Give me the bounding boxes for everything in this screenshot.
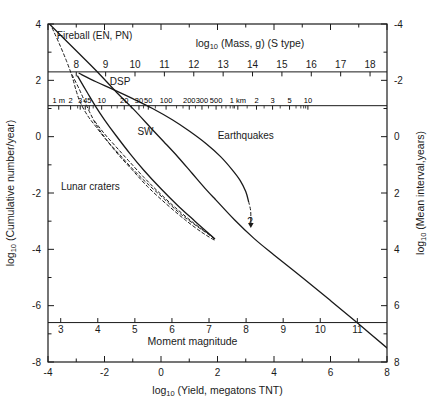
y-tick-label: -4 — [32, 244, 41, 255]
diameter-tick-label: 5 — [87, 96, 91, 105]
scientific-figure: -4-202468420-2-4-6-8-4-20246889101112131… — [0, 0, 436, 412]
curve-fireball-en-pn — [49, 24, 214, 199]
diameter-tick-label: 100 — [160, 96, 173, 105]
y2-tick-label: -2 — [394, 75, 403, 86]
x-tick-label: -4 — [44, 367, 53, 378]
diameter-tick-label: 500 — [210, 96, 223, 105]
x-tick-label: 4 — [271, 367, 277, 378]
magnitude-tick-label: 3 — [58, 324, 64, 335]
y2-tick-label: 0 — [394, 131, 400, 142]
inner-axes — [48, 72, 387, 323]
mass-tick-label: 16 — [306, 59, 318, 70]
y2-tick-label: 2 — [394, 188, 400, 199]
y-tick-label: -6 — [32, 300, 41, 311]
sw-label: SW — [137, 126, 154, 137]
x-tick-label: 2 — [215, 367, 221, 378]
mass-tick-label: 14 — [247, 59, 259, 70]
axis-titles: log10 (Yield, megatons TNT)log10 (Cumula… — [4, 37, 428, 398]
diameter-tick-label: 50 — [144, 96, 152, 105]
lunar-craters-label: Lunar craters — [61, 181, 120, 192]
magnitude-tick-label: 5 — [132, 324, 138, 335]
axis-ticks — [48, 24, 387, 362]
diameter-tick-label: 3 — [78, 96, 82, 105]
mass-axis-title: log10 (Mass, g) (S type) — [196, 37, 305, 51]
mass-tick-label: 12 — [188, 59, 200, 70]
y2-tick-label: 8 — [394, 357, 400, 368]
curve-lunar-craters-upper — [95, 121, 215, 238]
y2-tick-label: -4 — [394, 19, 403, 30]
diameter-tick-label: 200 — [183, 96, 196, 105]
mass-tick-label: 17 — [335, 59, 347, 70]
y-tick-label: 4 — [35, 19, 41, 30]
y-tick-label: 2 — [35, 75, 41, 86]
diameter-tick-label: 1 km — [230, 96, 246, 105]
diameter-tick-label: 10 — [304, 96, 312, 105]
diameter-tick-label: 300 — [196, 96, 209, 105]
magnitude-tick-label: 8 — [243, 324, 249, 335]
plot-frame — [48, 24, 387, 362]
y2-tick-label: 6 — [394, 300, 400, 311]
mass-tick-label: 10 — [129, 59, 141, 70]
diameter-tick-label: 5 — [287, 96, 291, 105]
mass-tick-label: 9 — [103, 59, 109, 70]
dsp-label: DSP — [110, 76, 131, 87]
y-tick-label: 0 — [35, 131, 41, 142]
magnitude-tick-label: 9 — [280, 324, 286, 335]
x-tick-label: -2 — [100, 367, 109, 378]
x-tick-label: 6 — [328, 367, 334, 378]
y-tick-label: -2 — [32, 188, 41, 199]
y2-tick-label: 4 — [394, 244, 400, 255]
diameter-tick-label: 2 — [254, 96, 258, 105]
diameter-tick-label: 10 — [98, 96, 106, 105]
plot-border — [48, 24, 387, 362]
x-tick-label: 0 — [158, 367, 164, 378]
chart-canvas: -4-202468420-2-4-6-8-4-20246889101112131… — [0, 0, 436, 412]
mass-tick-label: 13 — [218, 59, 230, 70]
diameter-tick-label: 1 m — [52, 96, 65, 105]
diameter-tick-label: 2 — [69, 96, 73, 105]
mass-tick-label: 18 — [364, 59, 376, 70]
y-axis-title: log10 (Cumulative number/year) — [4, 120, 18, 267]
magnitude-tick-label: 10 — [315, 324, 327, 335]
magnitude-tick-label: 6 — [169, 324, 175, 335]
magnitude-tick-label: 11 — [352, 324, 363, 335]
magnitude-tick-label: 7 — [206, 324, 212, 335]
mass-tick-label: 8 — [73, 59, 79, 70]
magnitude-tick-label: 4 — [95, 324, 101, 335]
y-tick-label: -8 — [32, 357, 41, 368]
question-mark-label: ? — [247, 216, 253, 227]
diameter-tick-label: 3 — [271, 96, 275, 105]
y2-axis-title: log10 (Mean interval,years) — [414, 131, 428, 255]
diameter-tick-label: 30 — [135, 96, 143, 105]
earthquakes-label: Earthquakes — [218, 130, 274, 141]
tick-labels: -4-202468420-2-4-6-8-4-20246889101112131… — [32, 19, 403, 378]
x-axis-title: log10 (Yield, megatons TNT) — [152, 384, 282, 398]
fireball-label: Fireball (EN, PN) — [57, 30, 133, 41]
mass-tick-label: 11 — [159, 59, 170, 70]
moment-magnitude-title: Moment magnitude — [148, 335, 238, 347]
x-tick-label: 8 — [384, 367, 390, 378]
curve-earthquakes-extrapolation — [249, 201, 251, 216]
mass-tick-label: 15 — [276, 59, 288, 70]
diameter-tick-label: 20 — [120, 96, 128, 105]
